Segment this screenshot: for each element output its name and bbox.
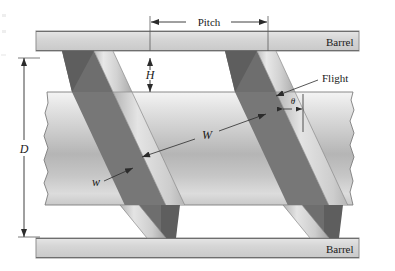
barrel-top-label: Barrel xyxy=(326,36,353,48)
flight-1-shadow-lower-dark xyxy=(161,205,180,238)
barrel-bottom-bar xyxy=(36,238,359,258)
channel-depth-dimension: H xyxy=(145,58,156,92)
helix-angle-label: θ xyxy=(291,96,296,106)
barrel-bottom xyxy=(36,238,359,258)
flight-2-shadow-lower-dark xyxy=(324,205,343,238)
extruder-screw-diagram: Pitch H D W w Flight xyxy=(0,0,395,271)
screw-diameter-label: D xyxy=(19,142,29,156)
flight-width-label: w xyxy=(92,175,100,189)
scan-artifacts xyxy=(1,14,6,56)
screw-diameter-dimension: D xyxy=(18,58,40,237)
channel-width-label: W xyxy=(202,128,213,142)
diagram-canvas: Pitch H D W w Flight xyxy=(0,0,395,271)
channel-depth-label: H xyxy=(145,68,156,82)
barrel-top xyxy=(36,31,359,51)
barrel-top-bar xyxy=(36,31,359,51)
flight-label: Flight xyxy=(322,72,348,84)
pitch-label: Pitch xyxy=(198,16,221,28)
barrel-bottom-label: Barrel xyxy=(326,243,353,255)
